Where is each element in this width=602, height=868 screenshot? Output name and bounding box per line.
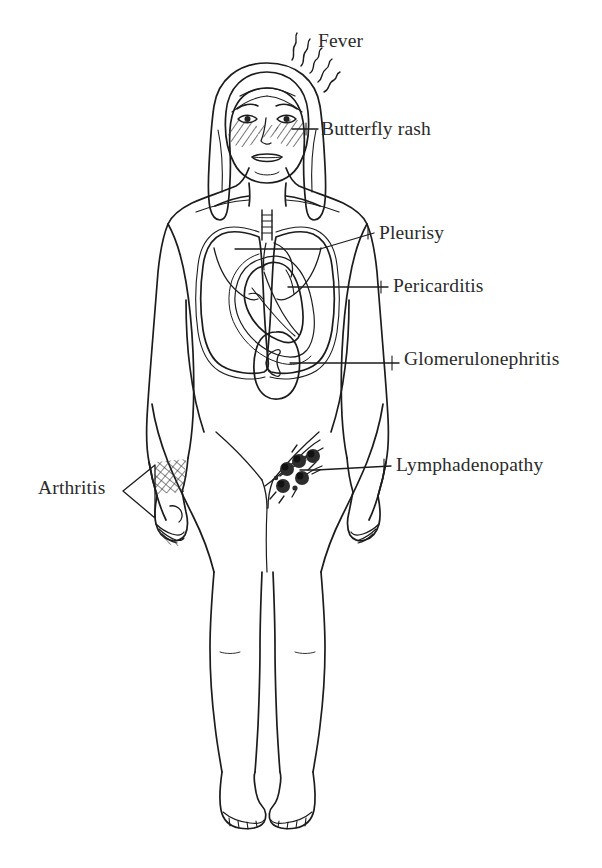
label-pleurisy: Pleurisy bbox=[379, 223, 444, 243]
butterfly-rash-hatching bbox=[228, 119, 306, 147]
inguinal-lymph-nodes bbox=[265, 440, 323, 503]
lungs-pleura bbox=[196, 210, 340, 379]
label-lymphadenopathy: Lymphadenopathy bbox=[396, 455, 543, 475]
right-hand bbox=[347, 458, 386, 543]
label-glomerulonephritis: Glomerulonephritis bbox=[404, 349, 559, 369]
head-and-face bbox=[208, 63, 325, 220]
label-arthritis: Arthritis bbox=[38, 478, 105, 498]
label-butterfly-rash: Butterfly rash bbox=[321, 119, 431, 139]
label-fever: Fever bbox=[318, 31, 363, 51]
anatomical-line-drawing bbox=[0, 0, 602, 868]
legs bbox=[210, 572, 325, 772]
label-pericarditis: Pericarditis bbox=[393, 276, 484, 296]
neck-and-clavicles bbox=[196, 183, 339, 212]
breast-contours bbox=[214, 248, 321, 300]
feet bbox=[220, 772, 315, 829]
lupus-manifestations-figure: Fever Butterfly rash Pleurisy Pericardit… bbox=[0, 0, 602, 868]
